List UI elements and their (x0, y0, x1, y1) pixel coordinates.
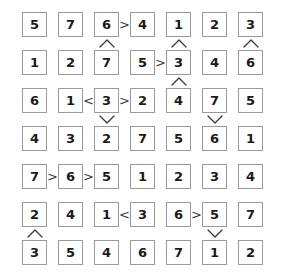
grid-cell-r7-c1[interactable]: 3 (22, 240, 47, 265)
grid-cell-r4-c2[interactable]: 3 (58, 126, 83, 151)
grid-cell-r5-c3[interactable]: 5 (94, 164, 119, 189)
grid-cell-r2-c1[interactable]: 1 (22, 50, 47, 75)
grid-cell-r3-c6[interactable]: 7 (202, 88, 227, 113)
grid-cell-r1-c6[interactable]: 2 (202, 12, 227, 37)
grid-cell-r4-c4[interactable]: 7 (130, 126, 155, 151)
grid-cell-r2-c7[interactable]: 6 (238, 50, 263, 75)
horizontal-inequality-r5-c1: > (47, 168, 58, 186)
horizontal-inequality-r6-c5: > (191, 206, 202, 224)
grid-cell-r5-c5[interactable]: 2 (166, 164, 191, 189)
grid-cell-r7-c7[interactable]: 2 (238, 240, 263, 265)
horizontal-inequality-r5-c2: > (83, 168, 94, 186)
vertical-inequality-r6-c6 (206, 228, 224, 239)
vertical-inequality-r1-c5 (170, 38, 188, 49)
grid-cell-r1-c1[interactable]: 5 (22, 12, 47, 37)
horizontal-inequality-r1-c3: > (119, 16, 130, 34)
puzzle-grid: 5764123127534661324754327561765123424136… (0, 0, 284, 275)
grid-cell-r1-c4[interactable]: 4 (130, 12, 155, 37)
horizontal-inequality-r3-c3: > (119, 92, 130, 110)
grid-cell-r2-c3[interactable]: 7 (94, 50, 119, 75)
grid-cell-r1-c2[interactable]: 7 (58, 12, 83, 37)
grid-cell-r1-c7[interactable]: 3 (238, 12, 263, 37)
grid-cell-r5-c1[interactable]: 7 (22, 164, 47, 189)
vertical-inequality-r2-c5 (170, 76, 188, 87)
grid-cell-r5-c4[interactable]: 1 (130, 164, 155, 189)
grid-cell-r4-c7[interactable]: 1 (238, 126, 263, 151)
grid-cell-r7-c5[interactable]: 7 (166, 240, 191, 265)
grid-cell-r6-c7[interactable]: 7 (238, 202, 263, 227)
grid-cell-r2-c6[interactable]: 4 (202, 50, 227, 75)
grid-cell-r3-c7[interactable]: 5 (238, 88, 263, 113)
vertical-inequality-r6-c1 (26, 228, 44, 239)
grid-cell-r5-c6[interactable]: 3 (202, 164, 227, 189)
grid-cell-r6-c6[interactable]: 5 (202, 202, 227, 227)
grid-cell-r7-c2[interactable]: 5 (58, 240, 83, 265)
grid-cell-r7-c6[interactable]: 1 (202, 240, 227, 265)
grid-cell-r7-c3[interactable]: 4 (94, 240, 119, 265)
grid-cell-r3-c5[interactable]: 4 (166, 88, 191, 113)
grid-cell-r1-c5[interactable]: 1 (166, 12, 191, 37)
grid-cell-r2-c4[interactable]: 5 (130, 50, 155, 75)
grid-cell-r3-c4[interactable]: 2 (130, 88, 155, 113)
grid-cell-r2-c5[interactable]: 3 (166, 50, 191, 75)
grid-cell-r5-c2[interactable]: 6 (58, 164, 83, 189)
grid-cell-r4-c3[interactable]: 2 (94, 126, 119, 151)
futoshiki-puzzle: 5764123127534661324754327561765123424136… (0, 0, 284, 275)
grid-cell-r5-c7[interactable]: 4 (238, 164, 263, 189)
grid-cell-r3-c2[interactable]: 1 (58, 88, 83, 113)
grid-cell-r1-c3[interactable]: 6 (94, 12, 119, 37)
vertical-inequality-r1-c3 (98, 38, 116, 49)
grid-cell-r6-c5[interactable]: 6 (166, 202, 191, 227)
horizontal-inequality-r6-c3: < (119, 206, 130, 224)
grid-cell-r6-c1[interactable]: 2 (22, 202, 47, 227)
grid-cell-r6-c2[interactable]: 4 (58, 202, 83, 227)
grid-cell-r6-c4[interactable]: 3 (130, 202, 155, 227)
horizontal-inequality-r3-c2: < (83, 92, 94, 110)
grid-cell-r4-c6[interactable]: 6 (202, 126, 227, 151)
vertical-inequality-r1-c7 (242, 38, 260, 49)
grid-cell-r6-c3[interactable]: 1 (94, 202, 119, 227)
horizontal-inequality-r2-c4: > (155, 54, 166, 72)
grid-cell-r3-c3[interactable]: 3 (94, 88, 119, 113)
grid-cell-r4-c5[interactable]: 5 (166, 126, 191, 151)
vertical-inequality-r3-c3 (98, 114, 116, 125)
grid-cell-r2-c2[interactable]: 2 (58, 50, 83, 75)
grid-cell-r3-c1[interactable]: 6 (22, 88, 47, 113)
grid-cell-r4-c1[interactable]: 4 (22, 126, 47, 151)
grid-cell-r7-c4[interactable]: 6 (130, 240, 155, 265)
vertical-inequality-r3-c6 (206, 114, 224, 125)
